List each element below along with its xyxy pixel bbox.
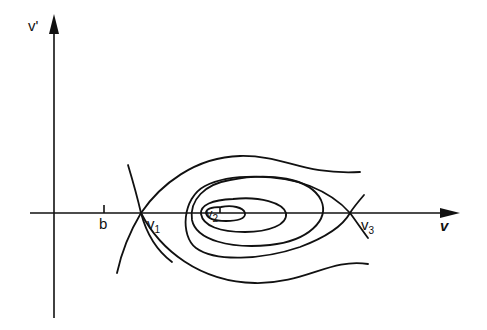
point-label-v3: v3	[361, 217, 374, 236]
outer-orbit-upper	[141, 156, 360, 213]
separatrix-v1-lower-left	[117, 213, 141, 273]
y-axis-label: v'	[28, 18, 38, 33]
x-axis-label: v	[440, 218, 448, 233]
point-label-v1: v1	[147, 216, 160, 235]
y-axis-arrow-icon	[49, 14, 59, 34]
outer-orbit-lower	[141, 213, 368, 283]
point-label-b: b	[99, 216, 107, 231]
phase-plane	[0, 0, 487, 330]
point-label-v2: v2	[206, 207, 218, 224]
phase-portrait-diagram: v' v b v1 v2 v3	[0, 0, 487, 330]
